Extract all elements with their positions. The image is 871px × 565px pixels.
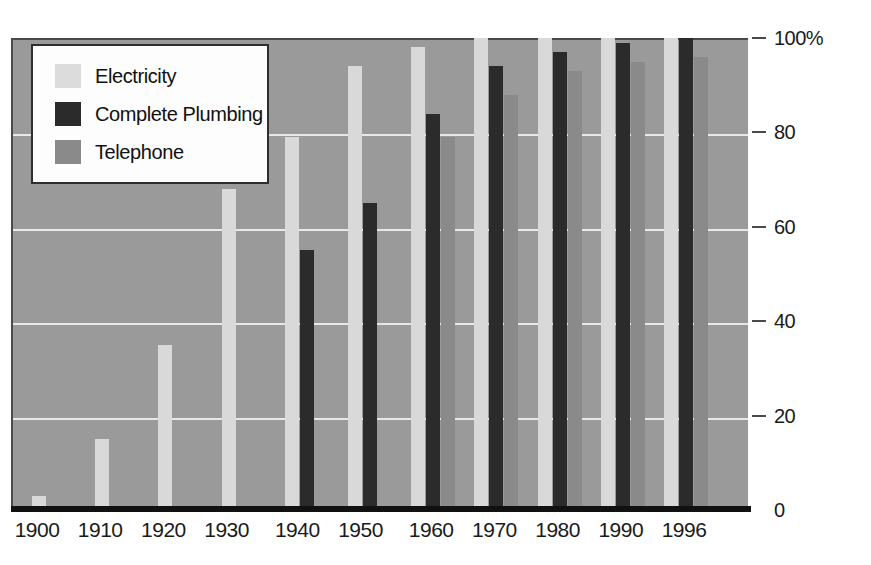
x-tick-label-1910: 1910 <box>78 518 123 542</box>
legend-item-electricity: Electricity <box>33 57 267 95</box>
x-tick-label-1940: 1940 <box>275 518 320 542</box>
legend-label-telephone: Telephone <box>95 141 184 164</box>
bar-group-1940 <box>285 40 314 510</box>
bar-1950-elec <box>348 66 362 510</box>
bar-group-1960 <box>411 40 455 510</box>
legend: Electricity Complete Plumbing Telephone <box>31 44 269 184</box>
bar-group-1950 <box>348 40 377 510</box>
y-tick-label-80: 80 <box>774 121 795 144</box>
bar-1930-elec <box>222 189 236 510</box>
bar-1920-elec <box>158 345 172 510</box>
x-tick-label-1920: 1920 <box>141 518 186 542</box>
y-tick-label-100: 100% <box>774 27 823 50</box>
legend-label-electricity: Electricity <box>95 65 176 88</box>
x-tick-label-1960: 1960 <box>409 518 454 542</box>
y-tick-100 <box>752 37 766 39</box>
legend-swatch-icon-complete-plumbing <box>55 102 81 126</box>
x-axis-baseline <box>11 506 751 512</box>
bar-1996-tel <box>694 57 708 510</box>
legend-item-telephone: Telephone <box>33 133 267 171</box>
bar-1960-tel <box>441 137 455 510</box>
x-tick-label-1930: 1930 <box>204 518 249 542</box>
bar-group-1980 <box>538 40 582 510</box>
y-tick-40 <box>752 320 766 322</box>
y-tick-label-40: 40 <box>774 310 795 333</box>
y-tick-label-60: 60 <box>774 215 795 238</box>
bar-group-1996 <box>664 40 708 510</box>
bar-1940-elec <box>285 137 299 510</box>
legend-swatch-icon-electricity <box>55 64 81 88</box>
bar-group-1970 <box>474 40 518 510</box>
x-tick-label-1996: 1996 <box>662 518 707 542</box>
x-axis: 1900191019201930194019501960197019801990… <box>0 518 760 558</box>
legend-label-complete-plumbing: Complete Plumbing <box>95 103 263 126</box>
bar-1960-elec <box>411 47 425 510</box>
legend-item-complete-plumbing: Complete Plumbing <box>33 95 267 133</box>
y-tick-60 <box>752 226 766 228</box>
bar-1990-elec <box>601 38 615 510</box>
bar-1996-elec <box>664 38 678 510</box>
bar-1910-elec <box>95 439 109 510</box>
bar-1940-plumb <box>300 250 314 510</box>
y-tick-80 <box>752 131 766 133</box>
bar-1950-plumb <box>363 203 377 510</box>
bar-1970-plumb <box>489 66 503 510</box>
bar-1960-plumb <box>426 114 440 510</box>
bar-1980-tel <box>568 71 582 510</box>
y-tick-label-20: 20 <box>774 404 795 427</box>
bar-1970-elec <box>474 38 488 510</box>
x-tick-label-1950: 1950 <box>338 518 383 542</box>
bar-1996-plumb <box>679 38 693 510</box>
bar-1980-plumb <box>553 52 567 510</box>
y-tick-label-0: 0 <box>774 499 785 522</box>
bar-1990-tel <box>631 62 645 510</box>
x-tick-label-1980: 1980 <box>535 518 580 542</box>
x-tick-label-1900: 1900 <box>15 518 60 542</box>
x-tick-label-1990: 1990 <box>598 518 643 542</box>
bar-group-1990 <box>601 40 645 510</box>
legend-swatch-icon-telephone <box>55 140 81 164</box>
bar-1980-elec <box>538 38 552 510</box>
x-tick-label-1970: 1970 <box>472 518 517 542</box>
y-tick-20 <box>752 415 766 417</box>
chart-figure: 020406080100% 19001910192019301940195019… <box>0 0 871 565</box>
y-axis: 020406080100% <box>752 0 871 565</box>
bar-1990-plumb <box>616 43 630 510</box>
bar-1970-tel <box>504 95 518 510</box>
